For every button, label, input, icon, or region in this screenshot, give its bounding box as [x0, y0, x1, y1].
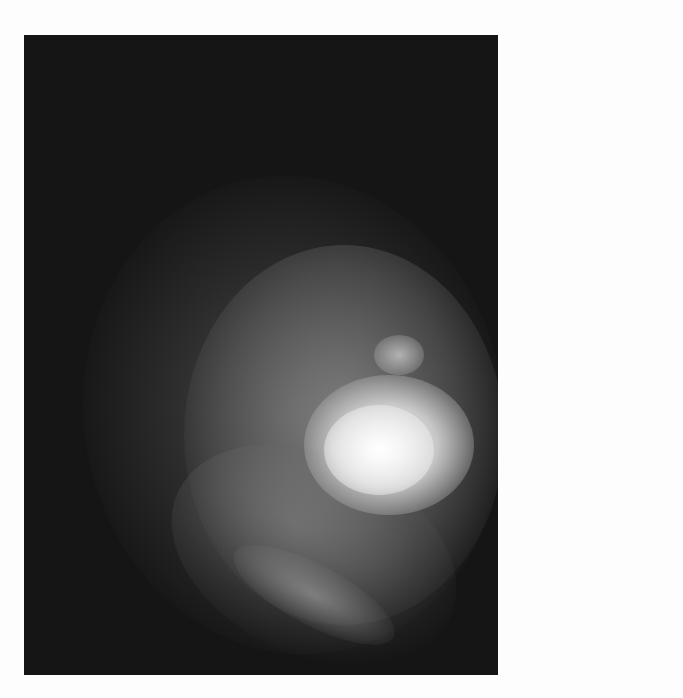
- core-center: [324, 405, 434, 495]
- upper-knot: [374, 335, 424, 375]
- nebula-photo: [24, 35, 498, 675]
